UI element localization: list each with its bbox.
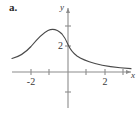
x-axis-label: x [130,70,135,80]
x-tick-label--2: -2 [27,76,35,87]
y-tick-label-2: 2 [58,40,63,51]
figure-container: a. -2 2 2 x y [0,0,139,116]
y-axis-arrowhead [66,8,70,13]
curve-path [12,29,131,68]
y-axis-label: y [59,2,64,12]
graph-plot: -2 2 2 x y [0,0,139,116]
x-tick-label-2: 2 [103,76,108,87]
